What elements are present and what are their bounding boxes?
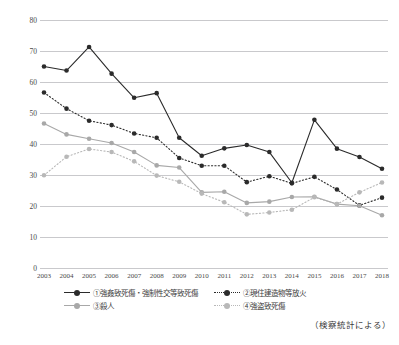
clipped-title <box>0 0 399 3</box>
x-tick-label-2017: 2017 <box>352 272 366 280</box>
x-tick-label-2004: 2004 <box>60 272 74 280</box>
x-tick-label-2018: 2018 <box>375 272 389 280</box>
data-point <box>64 68 69 73</box>
x-tick-label-2010: 2010 <box>195 272 209 280</box>
data-point <box>64 106 69 111</box>
x-tick-label-2011: 2011 <box>217 272 231 280</box>
x-tick-label-2015: 2015 <box>307 272 321 280</box>
data-point <box>245 180 250 185</box>
legend-label-s4: ④強盗致死傷 <box>243 300 285 311</box>
data-point <box>87 147 92 152</box>
data-point <box>132 150 137 155</box>
legend: ①強姦致死傷・強制性交等致死傷②現住建造物等放火③殺人④強盗致死傷 <box>0 287 399 315</box>
data-point <box>357 190 362 195</box>
y-tick-label-80: 80 <box>21 16 37 25</box>
data-point <box>154 136 159 141</box>
data-point <box>267 150 272 155</box>
series-4-line <box>44 149 382 214</box>
data-point <box>109 150 114 155</box>
data-point <box>177 165 182 170</box>
data-point <box>380 167 385 172</box>
y-tick-label-30: 30 <box>21 171 37 180</box>
legend-marker-s2-icon <box>214 288 240 297</box>
series-1 <box>42 45 385 185</box>
data-point <box>267 174 272 179</box>
data-point <box>132 159 137 164</box>
data-point <box>87 118 92 123</box>
data-point <box>42 173 47 178</box>
data-point <box>177 136 182 141</box>
data-point <box>109 123 114 128</box>
data-point <box>357 203 362 208</box>
data-point <box>312 195 317 200</box>
data-point <box>312 175 317 180</box>
x-tick-label-2007: 2007 <box>127 272 141 280</box>
x-tick-label-2008: 2008 <box>150 272 164 280</box>
data-point <box>245 143 250 148</box>
legend-label-s2: ②現住建造物等放火 <box>243 287 306 298</box>
data-point <box>267 210 272 215</box>
data-point <box>245 212 250 217</box>
series-lines <box>40 20 388 268</box>
data-point <box>380 195 385 200</box>
x-tick-label-2016: 2016 <box>330 272 344 280</box>
y-tick-label-20: 20 <box>21 202 37 211</box>
series-3-line <box>44 124 382 216</box>
data-point <box>380 213 385 218</box>
legend-item-s4[interactable]: ④強盗致死傷 <box>214 300 285 311</box>
data-point <box>357 155 362 160</box>
data-point <box>154 91 159 96</box>
x-tick-label-2003: 2003 <box>37 272 51 280</box>
data-point <box>42 121 47 126</box>
data-point <box>245 201 250 206</box>
data-point <box>64 132 69 137</box>
y-tick-label-40: 40 <box>21 140 37 149</box>
data-point <box>42 64 47 69</box>
data-point <box>87 45 92 50</box>
x-tick-label-2005: 2005 <box>82 272 96 280</box>
data-point <box>199 191 204 196</box>
data-point <box>222 189 227 194</box>
data-point <box>335 202 340 207</box>
y-tick-label-50: 50 <box>21 109 37 118</box>
x-tick-label-2014: 2014 <box>285 272 299 280</box>
data-point <box>335 187 340 192</box>
data-point <box>290 181 295 186</box>
x-tick-label-2006: 2006 <box>105 272 119 280</box>
data-point <box>132 131 137 136</box>
series-2-line <box>44 93 382 206</box>
legend-label-s3: ③殺人 <box>93 300 114 311</box>
y-tick-label-60: 60 <box>21 78 37 87</box>
data-point <box>87 136 92 141</box>
y-tick-label-10: 10 <box>21 233 37 242</box>
data-point <box>335 146 340 151</box>
legend-marker-s4-icon <box>214 301 240 310</box>
data-point <box>109 141 114 146</box>
legend-item-s1[interactable]: ①強姦致死傷・強制性交等致死傷 <box>64 287 198 298</box>
data-point <box>177 180 182 185</box>
series-4 <box>42 147 385 217</box>
data-point <box>290 207 295 212</box>
legend-marker-s3-icon <box>64 301 90 310</box>
data-point <box>132 96 137 101</box>
data-point <box>222 146 227 151</box>
legend-marker-s1-icon <box>64 288 90 297</box>
data-point <box>222 200 227 205</box>
legend-item-s3[interactable]: ③殺人 <box>64 300 114 311</box>
chart-figure: 01020304050607080 2003200420052006200720… <box>0 0 399 345</box>
data-point <box>109 71 114 76</box>
x-tick-label-2012: 2012 <box>240 272 254 280</box>
data-point <box>64 154 69 159</box>
data-point <box>199 153 204 158</box>
data-point <box>42 90 47 95</box>
data-point <box>177 156 182 161</box>
data-point <box>267 199 272 204</box>
y-tick-label-0: 0 <box>21 264 37 273</box>
x-tick-label-2009: 2009 <box>172 272 186 280</box>
legend-label-s1: ①強姦致死傷・強制性交等致死傷 <box>93 287 198 298</box>
plot-area: 01020304050607080 2003200420052006200720… <box>40 20 388 268</box>
data-point <box>154 163 159 168</box>
data-point <box>290 195 295 200</box>
series-2 <box>42 90 385 207</box>
legend-item-s2[interactable]: ②現住建造物等放火 <box>214 287 306 298</box>
